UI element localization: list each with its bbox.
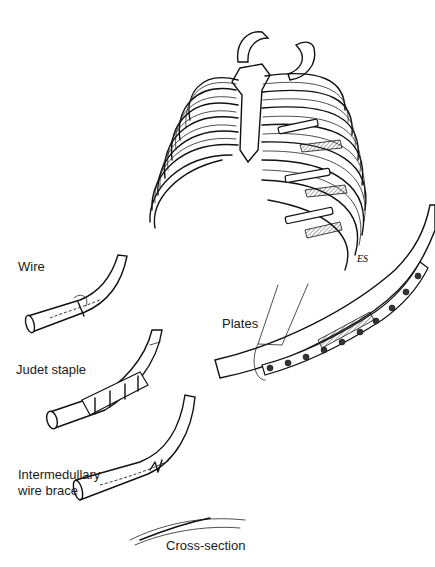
intermedullary-label-line1: Intermedullary (18, 467, 100, 483)
right-ribs (262, 74, 366, 270)
left-ribs (150, 78, 238, 228)
cross-section-label: Cross-section (166, 538, 245, 554)
rib-cage-illustration: ES (150, 32, 368, 270)
judet-staple-rib-illustration (45, 330, 162, 430)
artist-signature: ES (356, 253, 368, 264)
plates-label: Plates (222, 316, 258, 332)
intermedullary-label-line2: wire brace (18, 483, 78, 499)
wire-label: Wire (18, 259, 45, 275)
judet-staple-label: Judet staple (16, 362, 86, 378)
